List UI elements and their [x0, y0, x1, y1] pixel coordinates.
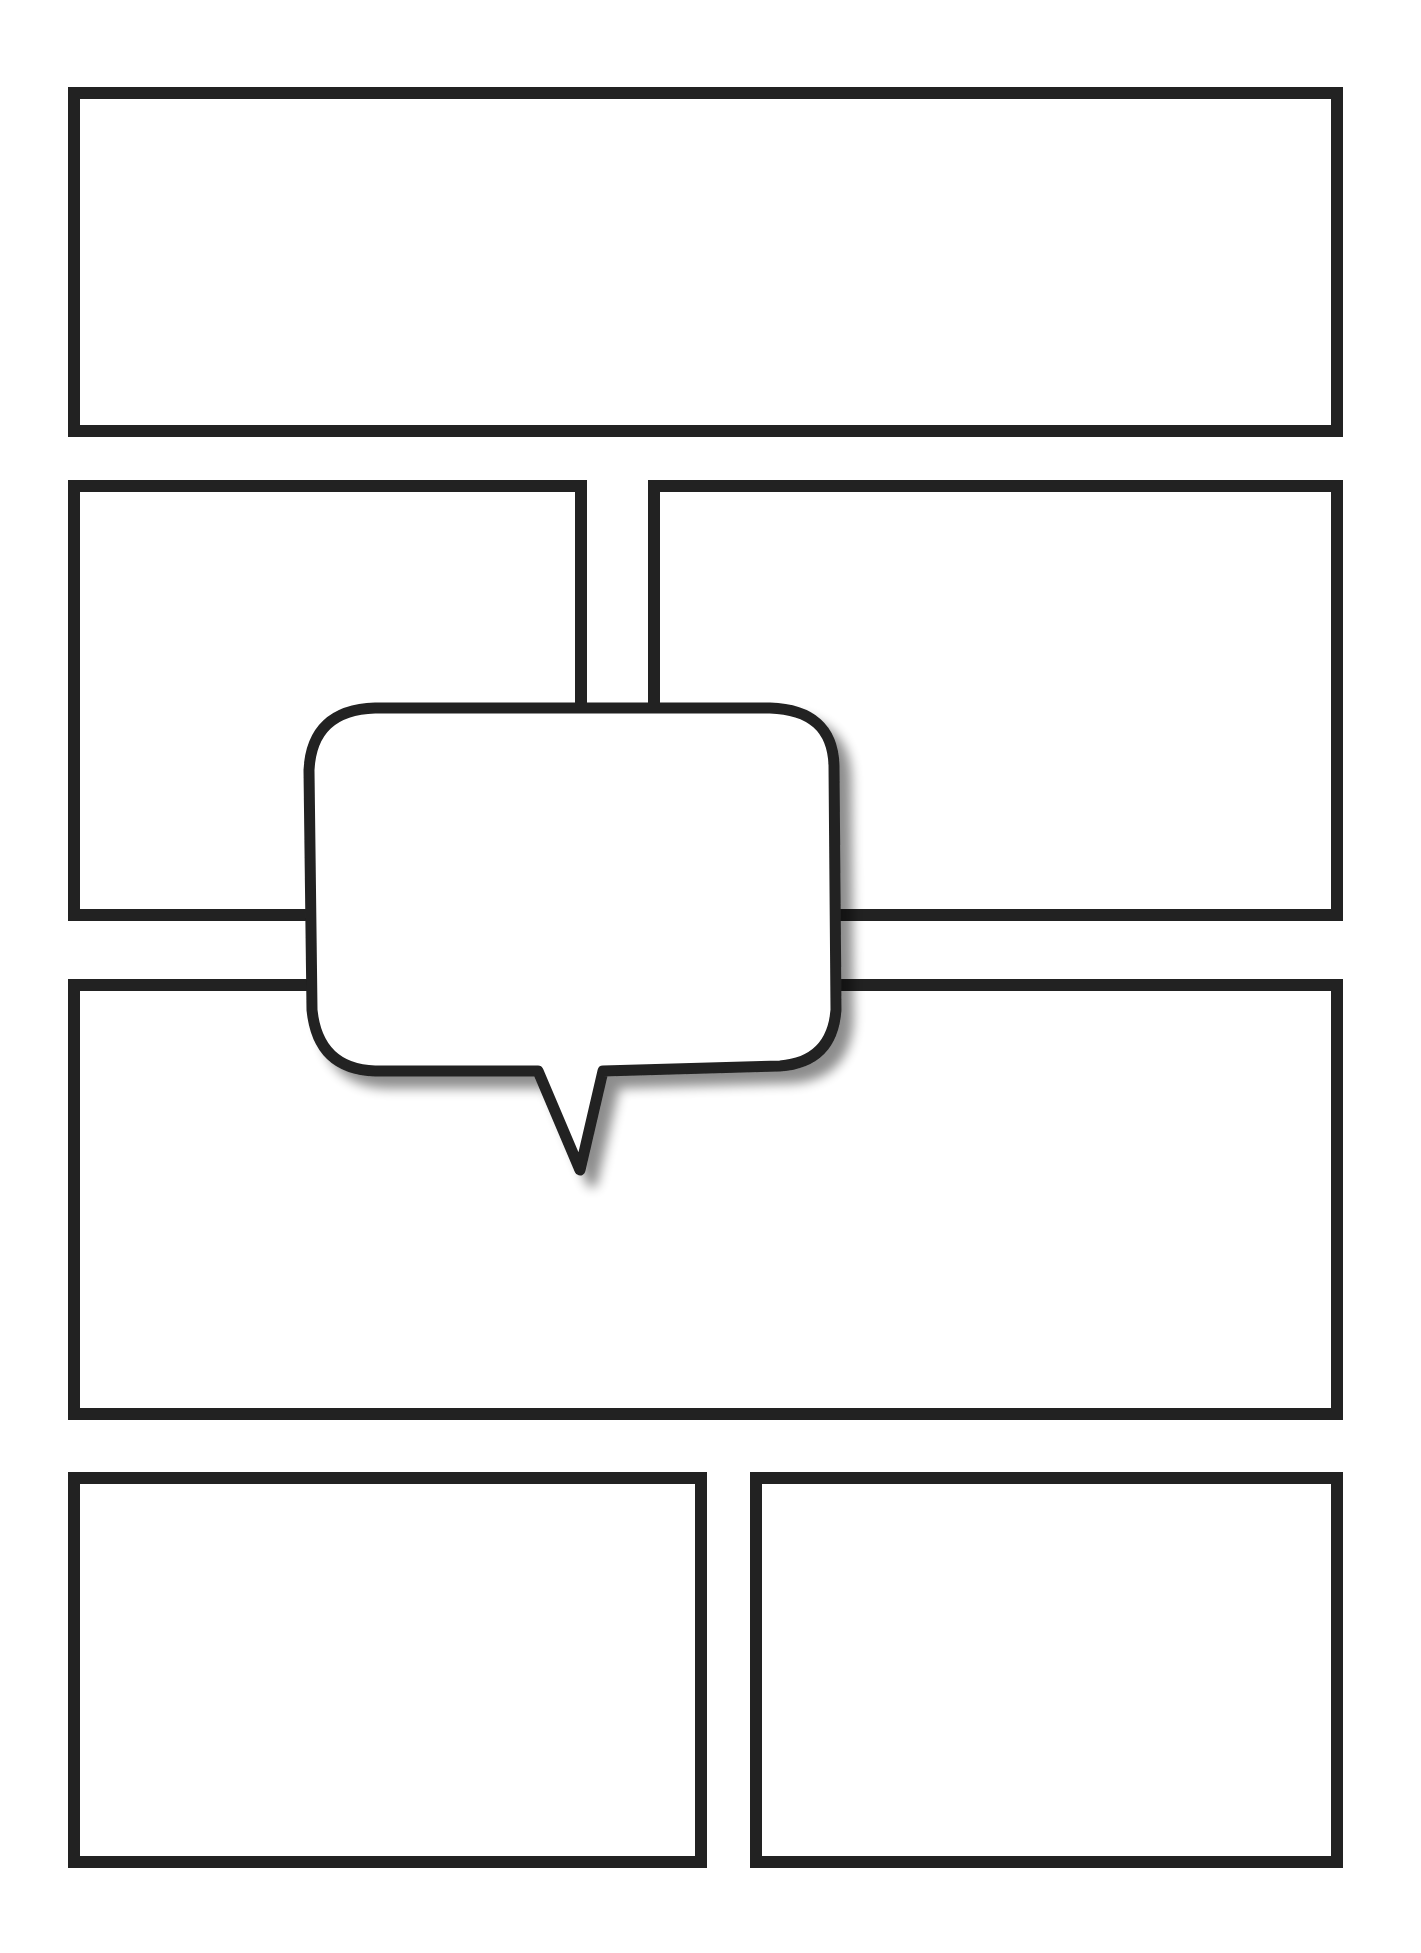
speech-bubble [0, 0, 1421, 1953]
speech-bubble-shape [309, 708, 836, 1170]
